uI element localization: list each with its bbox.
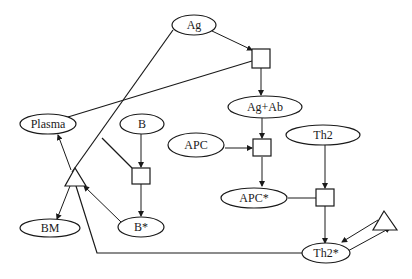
- edge-triangle-to-bm: [57, 186, 70, 219]
- node-label: Ag: [187, 18, 202, 32]
- th2-activation-box[interactable]: [316, 189, 334, 206]
- edge-triangle-to-plasma: [58, 135, 71, 170]
- b-activation-box[interactable]: [132, 168, 150, 184]
- node-apc-star[interactable]: APC*: [221, 188, 287, 208]
- node-th2[interactable]: Th2: [286, 125, 360, 145]
- node-label: APC: [184, 138, 207, 152]
- edge-th2star-to-triangle: [346, 228, 390, 252]
- edge-ag-to-triangle: [72, 30, 173, 172]
- node-apc[interactable]: APC: [168, 133, 224, 157]
- node-label: Th2: [313, 128, 332, 142]
- edge-triangle-to-th2star: [342, 220, 378, 242]
- node-label: BM: [41, 221, 60, 235]
- edge-binding-to-plasma: [68, 61, 252, 117]
- edge-ag-to-binding: [212, 31, 252, 50]
- edge-ag-to-bbox: [102, 138, 132, 168]
- node-label: Plasma: [31, 117, 66, 131]
- ag-binding-box[interactable]: [252, 49, 270, 68]
- node-b-star[interactable]: B*: [118, 217, 164, 237]
- node-label: APC*: [239, 191, 268, 205]
- node-label: B*: [134, 220, 148, 234]
- node-th2-star[interactable]: Th2*: [302, 243, 350, 263]
- apc-activation-box[interactable]: [253, 139, 271, 156]
- node-label: B: [138, 117, 146, 131]
- node-bm[interactable]: BM: [20, 219, 80, 237]
- node-label: Ag+Ab: [247, 100, 283, 114]
- node-ag-ab[interactable]: Ag+Ab: [228, 96, 302, 118]
- node-label: Th2*: [313, 246, 338, 260]
- node-ag[interactable]: Ag: [172, 15, 216, 35]
- edge-bstar-to-triangle: [84, 186, 121, 222]
- node-b[interactable]: B: [120, 114, 164, 134]
- node-plasma[interactable]: Plasma: [20, 114, 76, 134]
- petri-net-diagram: Ag Ag+Ab Plasma B APC Th2 APC* BM B* Th2…: [0, 0, 412, 279]
- differentiation-triangle[interactable]: [65, 168, 86, 186]
